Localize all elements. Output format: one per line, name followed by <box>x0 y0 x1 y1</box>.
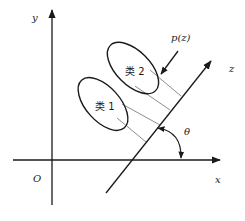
class-2-label: 类 2 <box>125 65 145 77</box>
pz-arrow <box>161 51 178 74</box>
z-axis-label: z <box>228 63 235 74</box>
projection-line <box>135 86 170 110</box>
origin-label: O <box>33 173 41 184</box>
diagram-canvas: y x O z θ p(z) 类 2 类 1 <box>0 0 245 221</box>
theta-arc <box>158 128 181 158</box>
pz-label: p(z) <box>171 32 191 43</box>
x-axis-label: x <box>215 174 221 185</box>
theta-label: θ <box>184 126 190 137</box>
class-1-label: 类 1 <box>95 100 115 112</box>
y-axis-label: y <box>31 12 38 23</box>
